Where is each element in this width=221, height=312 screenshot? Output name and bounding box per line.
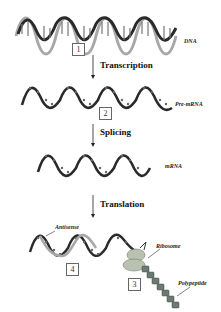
mrna-strand [38, 155, 150, 176]
central-dogma-diagram [0, 0, 221, 312]
arrow-transcription [91, 55, 95, 79]
dna-helix [16, 18, 176, 54]
stage-number-1: 1 [72, 43, 85, 56]
step-translation-label: Translation [100, 199, 144, 209]
step-transcription-label: Transcription [100, 60, 153, 70]
step-splicing-label: Splicing [100, 127, 131, 137]
stage-number-4: 4 [66, 263, 79, 276]
dna-label: DNA [184, 38, 197, 44]
arrow-splicing [91, 124, 95, 147]
pre-mrna-label: Pre-mRNA [175, 101, 203, 107]
polypeptide-label: Polypeptide [178, 280, 207, 286]
pre-mrna-strand [22, 87, 172, 110]
stage-number-3: 3 [128, 278, 141, 291]
mrna-label: mRNA [165, 163, 182, 169]
antisense-label: Antisense [55, 224, 79, 230]
arrow-translation [91, 195, 95, 218]
polypeptide-chain [142, 266, 179, 308]
ribosome-label: Ribosome [156, 243, 180, 249]
stage-number-2: 2 [99, 107, 112, 120]
